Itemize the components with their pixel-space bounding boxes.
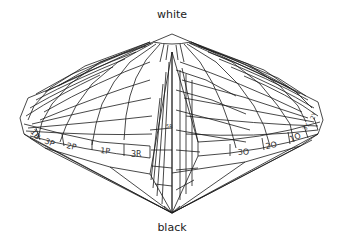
center-label: 5R	[166, 123, 173, 129]
rim-label-3Y: 3Y	[301, 121, 311, 131]
rim-label-2O: 2O	[265, 140, 278, 151]
rim-label-3P: 3P	[43, 137, 56, 149]
rim-label-3R: 3R	[131, 150, 142, 159]
rim-label-1P: 1P	[100, 146, 111, 156]
double-cone-diagram: 1B 3P 2P 1P 3R 3O 2O 1O 3Y 2Y 5R	[0, 0, 339, 244]
rim-label-3O: 3O	[238, 147, 250, 157]
rim-label-2P: 2P	[66, 141, 78, 152]
rim-label-2Y: 2Y	[308, 111, 317, 121]
rim-labels: 1B 3P 2P 1P 3R 3O 2O 1O 3Y 2Y 5R	[28, 111, 317, 159]
